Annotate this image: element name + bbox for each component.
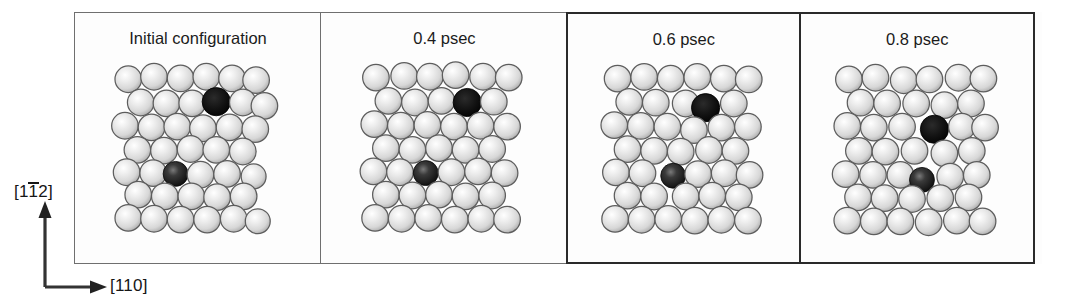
atom-light [959, 137, 986, 164]
atom-light [465, 158, 492, 185]
atom-light [949, 113, 976, 140]
panel-title: 0.4 psec [413, 30, 475, 47]
atom-light [931, 91, 958, 118]
atom-light [496, 64, 523, 91]
atom-light [874, 90, 901, 117]
atom-light [970, 65, 997, 92]
atom-light [479, 182, 506, 209]
atom-light [125, 181, 152, 208]
atom-light [376, 87, 403, 114]
atom-light [138, 114, 165, 141]
atom-light [903, 90, 930, 117]
atom-light [631, 63, 658, 90]
atom-light [901, 137, 928, 164]
atom-light [725, 184, 752, 211]
axis-label-horizontal: [110] [110, 276, 148, 296]
snapshot-panel-3: 0.6 psec [566, 12, 802, 264]
snapshot-panel-2: 0.4 psec [320, 12, 568, 264]
atom-lattice-svg [596, 62, 772, 238]
atom-light [214, 160, 241, 187]
atom-light [389, 205, 416, 232]
atom-light [453, 183, 480, 210]
atom-light [720, 90, 747, 117]
atom-light [400, 182, 427, 209]
atom-lattice [356, 61, 532, 237]
atom-light [115, 65, 142, 92]
atom-light [916, 66, 943, 93]
panel-title: 0.6 psec [653, 31, 715, 48]
atom-light [655, 205, 682, 232]
atom-light [672, 183, 699, 210]
atom-light [972, 114, 999, 141]
atom-light [614, 135, 641, 162]
atom-lattice-svg [829, 62, 1005, 238]
panel-title: Initial configuration [129, 30, 267, 47]
atom-light [872, 184, 899, 211]
atom-light [861, 114, 888, 141]
atom-light [889, 113, 916, 140]
snapshot-panel-4: 0.8 psec [799, 12, 1035, 264]
atom-light [667, 138, 694, 165]
atom-light [860, 161, 887, 188]
atom-light [415, 111, 442, 138]
atom-light [861, 208, 888, 235]
snapshot-panel-1: Initial configuration [74, 12, 322, 264]
atom-light [955, 184, 982, 211]
atom-light [891, 66, 918, 93]
atom-light [887, 208, 914, 235]
atom-light [426, 134, 453, 161]
horizontal-axis-arrowhead [90, 281, 107, 294]
vertical-axis-arrowhead [39, 201, 52, 218]
atom-light [604, 65, 631, 92]
atom-light [614, 182, 641, 209]
atom-light [373, 134, 400, 161]
atom-lattice-svg [110, 61, 286, 237]
atom-light [426, 181, 453, 208]
atom-light [153, 90, 180, 117]
atom-light [219, 65, 246, 92]
atom-light [834, 112, 861, 139]
md-snapshot-figure: [112] [110] Initial configuration0.4 pse… [0, 0, 1073, 306]
atom-light [361, 158, 388, 185]
atom-light [415, 204, 442, 231]
atom-dark [921, 115, 949, 143]
atom-light [115, 204, 142, 231]
atom-light [362, 204, 389, 231]
atom-lattice [829, 62, 1005, 238]
atom-light [443, 61, 470, 88]
atom-light [494, 113, 521, 140]
atom-light [468, 205, 495, 232]
atom-light [417, 63, 444, 90]
atom-light [833, 160, 860, 187]
atom-light [616, 88, 643, 115]
snapshot-panel-strip: Initial configuration0.4 psec0.6 psec0.8… [74, 12, 1042, 264]
atom-light [429, 87, 456, 114]
atom-lattice [110, 61, 286, 237]
atom-light [363, 64, 390, 91]
atom-light [602, 205, 629, 232]
atom-light [112, 112, 139, 139]
atom-light [468, 112, 495, 139]
atom-lattice [596, 62, 772, 238]
atom-light [388, 112, 415, 139]
atom-light [887, 161, 914, 188]
atom-light [708, 206, 735, 233]
atom-dark [202, 87, 230, 115]
atom-light [203, 136, 230, 163]
atom-light [654, 113, 681, 140]
atom-light [481, 88, 508, 115]
axis-label-vertical-prefix: [1 [14, 182, 29, 201]
atom-light [845, 184, 872, 211]
atom-light [470, 63, 497, 90]
atom-light [927, 184, 954, 211]
axis-label-vertical-suffix: 2] [38, 182, 53, 201]
atom-light [391, 62, 418, 89]
atom-light [710, 65, 737, 92]
axis-label-vertical: [112] [14, 181, 53, 202]
atom-light [167, 206, 194, 233]
atom-light [958, 90, 985, 117]
atom-light [834, 207, 861, 234]
atom-light [230, 138, 257, 165]
atom-light [373, 181, 400, 208]
atom-light [872, 138, 899, 165]
